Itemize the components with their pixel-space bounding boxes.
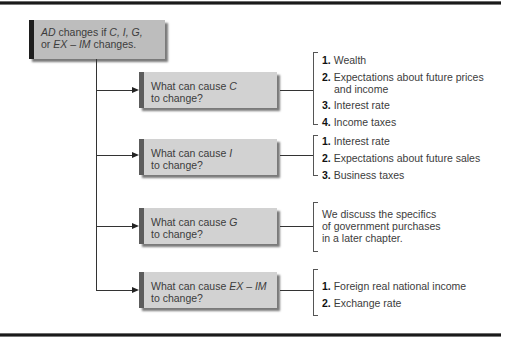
arrow-icon xyxy=(132,223,139,229)
ad-var: AD xyxy=(41,26,56,38)
list-item: 2. Exchange rate xyxy=(322,297,507,309)
box-g-var: G xyxy=(229,216,237,228)
list-item: 1. Foreign real national income xyxy=(322,280,507,292)
box-i-suffix: to change? xyxy=(151,159,203,171)
box-c-var: C xyxy=(229,80,237,92)
list-c: 1. Wealth 2. Expectations about future p… xyxy=(322,54,502,132)
cig-vars: C, I, G, xyxy=(109,26,142,38)
arrow-icon xyxy=(132,152,139,158)
box-exim-suffix: to change? xyxy=(151,292,203,304)
list-exim: 1. Foreign real national income 2. Excha… xyxy=(322,280,507,314)
root-text: AD changes if C, I, G, or EX – IM change… xyxy=(41,26,143,50)
root-text-2: changes. xyxy=(91,38,137,50)
box-i-var: I xyxy=(229,147,232,159)
connector-exim xyxy=(96,290,136,291)
connector-g xyxy=(96,226,136,227)
exim-var: EX – IM xyxy=(53,38,90,50)
arrow-icon xyxy=(132,287,139,293)
box-g-suffix: to change? xyxy=(151,228,203,240)
bottom-rule xyxy=(0,333,501,337)
box-cause-i: What can cause I to change? xyxy=(139,139,277,175)
list-item: 1. Wealth xyxy=(322,54,502,66)
list-item: 2. Expectations about future sales xyxy=(322,152,507,164)
box-g-prefix: What can cause xyxy=(151,216,229,228)
connector-i xyxy=(96,155,136,156)
list-item: 4. Income taxes xyxy=(322,116,502,128)
connector-c xyxy=(96,90,136,91)
box-exim-prefix: What can cause xyxy=(151,280,229,292)
bracket-c xyxy=(313,52,318,125)
box-c-to-list xyxy=(280,90,314,91)
bracket-i xyxy=(313,135,318,176)
box-g-to-note xyxy=(280,226,314,227)
list-item: 1. Interest rate xyxy=(322,135,507,147)
box-cause-exim: What can cause EX – IM to change? xyxy=(139,272,277,308)
bracket-g xyxy=(313,202,318,252)
list-i: 1. Interest rate 2. Expectations about f… xyxy=(322,135,507,186)
box-c-suffix: to change? xyxy=(151,92,203,104)
box-exim-to-list xyxy=(280,290,314,291)
box-exim-var: EX – IM xyxy=(229,280,266,292)
root-text-1: changes if xyxy=(56,26,110,38)
top-rule xyxy=(0,1,501,5)
box-cause-c: What can cause C to change? xyxy=(139,72,277,108)
root-box: AD changes if C, I, G, or EX – IM change… xyxy=(29,20,165,59)
arrow-icon xyxy=(132,87,139,93)
box-c-prefix: What can cause xyxy=(151,80,229,92)
list-item: 2. Expectations about future prices and … xyxy=(322,71,502,95)
box-i-to-list xyxy=(280,155,314,156)
list-item: 3. Business taxes xyxy=(322,169,507,181)
bracket-exim xyxy=(313,269,318,316)
trunk-line xyxy=(96,59,97,290)
root-text-or: or xyxy=(41,38,53,50)
list-item: 3. Interest rate xyxy=(322,99,502,111)
box-cause-g: What can cause G to change? xyxy=(139,208,277,244)
box-i-prefix: What can cause xyxy=(151,147,229,159)
note-g: We discuss the specifics of government p… xyxy=(322,208,447,244)
